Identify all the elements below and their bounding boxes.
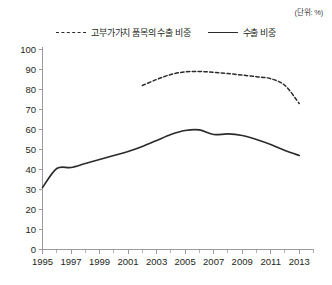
x-axis-tick-label: 2001 (118, 256, 139, 267)
series-line-export-share (43, 130, 300, 188)
x-axis-tick-label: 2013 (289, 256, 310, 267)
y-axis-tick-label: 100 (20, 44, 36, 55)
plot-area: 1009080706050403020100199519971999200120… (0, 0, 332, 285)
y-axis-tick-label: 20 (25, 204, 36, 215)
x-axis-tick-label: 1995 (32, 256, 53, 267)
x-axis-tick-label: 2011 (260, 256, 280, 267)
y-axis-tick-label: 80 (25, 84, 36, 95)
y-axis-tick-label: 10 (25, 224, 36, 235)
y-axis-tick-label: 60 (25, 124, 36, 135)
y-axis-tick-label: 0 (31, 244, 36, 255)
x-axis-tick-label: 1997 (60, 256, 81, 267)
series-line-high-value-added (142, 71, 299, 103)
x-axis-tick-label: 2003 (146, 256, 167, 267)
chart-container: (단위: %) 고부가가치 품목의 수출 비중 수출 비중 1009080706… (0, 0, 332, 285)
x-axis-tick-label: 2005 (175, 256, 196, 267)
x-axis-tick-label: 2009 (232, 256, 253, 267)
y-axis-tick-label: 70 (25, 104, 36, 115)
x-axis-tick-label: 2007 (203, 256, 224, 267)
y-axis-tick-label: 90 (25, 64, 36, 75)
x-axis-tick-label: 1999 (89, 256, 110, 267)
y-axis-tick-label: 40 (25, 164, 36, 175)
y-axis-tick-label: 50 (25, 144, 36, 155)
y-axis-tick-label: 30 (25, 184, 36, 195)
